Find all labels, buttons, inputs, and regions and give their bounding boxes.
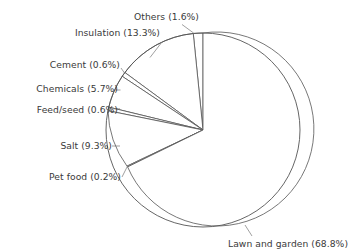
pie-label-feed-seed: Feed/seed (0.6%): [0, 104, 118, 115]
pie-label-pet-food: Pet food (0.2%): [0, 171, 121, 182]
pie-label-others: Others (1.6%): [134, 11, 199, 22]
pie-label-cement: Cement (0.6%): [0, 59, 120, 70]
pie-slices-group: [108, 32, 314, 226]
leader-line-pet-food: [122, 167, 127, 178]
pie-label-salt: Salt (9.3%): [0, 140, 112, 151]
pie-label-chemicals: Chemicals (5.7%): [0, 83, 118, 94]
pie-label-insulation: Insulation (13.3%): [20, 27, 160, 38]
leader-line-lawn-and-garden: [245, 225, 252, 236]
leader-line-others: [182, 25, 194, 34]
leader-line-cement: [121, 68, 125, 73]
pie-chart-figure: Others (1.6%) Insulation (13.3%) Cement …: [0, 0, 363, 252]
pie-label-lawn-and-garden: Lawn and garden (68.8%): [228, 238, 348, 249]
